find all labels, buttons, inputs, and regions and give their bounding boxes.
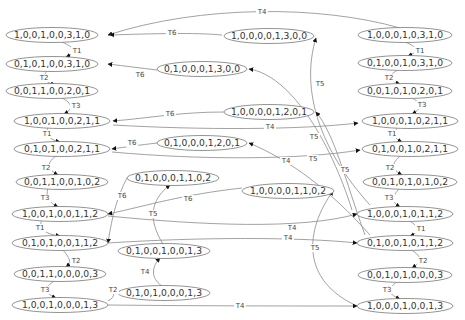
edge-label: T2 <box>41 164 51 172</box>
node-label: 1,0,0,0,1,0,1,1,2 <box>367 208 443 219</box>
node-label: 0,1,0,1,0,0,3,1,0 <box>14 58 90 69</box>
edge-label: T2 <box>39 74 49 82</box>
node-label: 1,0,0,1,0,0,2,1,1 <box>24 115 100 126</box>
edge-label: T2 <box>71 257 81 265</box>
state-node-l9[interactable]: 0,0,1,1,0,0,0,0,3 <box>14 267 106 282</box>
edge-t4 <box>113 123 358 129</box>
state-node-r10[interactable]: 1,0,0,0,1,0,0,1,3 <box>357 299 453 314</box>
edge-label: T6 <box>135 71 145 79</box>
state-node-r2[interactable]: 0,1,0,0,1,0,3,1,0 <box>358 56 452 71</box>
state-node-m5[interactable]: 0,1,0,0,0,1,1,0,2 <box>127 171 219 186</box>
edge-label: T3 <box>40 194 50 202</box>
state-node-m7[interactable]: 0,1,0,0,1,0,0,1,3 <box>118 244 210 259</box>
edge-t4 <box>108 305 357 306</box>
node-label: 0,1,0,0,1,0,1,1,2 <box>367 237 443 248</box>
edge-t6 <box>108 188 242 214</box>
edge-label: T3 <box>40 286 50 294</box>
edge-label: T2 <box>385 164 395 172</box>
edge-t2 <box>62 249 69 267</box>
node-label: 0,0,1,0,1,0,0,0,3 <box>367 269 443 280</box>
node-label: 0,1,0,0,0,1,2,0,1 <box>164 137 240 148</box>
state-node-l10[interactable]: 1,0,0,1,0,0,0,1,3 <box>12 298 108 313</box>
edge-label: T5 <box>309 133 319 141</box>
edge-label: T1 <box>387 130 397 138</box>
edge-label: T5 <box>148 210 158 218</box>
node-label: 1,0,0,0,0,1,3,0,0 <box>231 30 307 41</box>
state-node-l5[interactable]: 0,1,0,1,0,0,2,1,1 <box>14 142 110 157</box>
state-node-r6[interactable]: 0,0,1,0,1,0,1,0,2 <box>363 175 457 190</box>
state-node-l3[interactable]: 0,0,1,1,0,0,2,0,1 <box>6 84 98 99</box>
edge-label: T3 <box>384 194 394 202</box>
state-node-l4[interactable]: 1,0,0,1,0,0,2,1,1 <box>14 114 110 129</box>
edge-label: T6 <box>127 139 137 147</box>
edge-label: T2 <box>384 74 394 82</box>
node-label: 0,0,1,0,1,0,1,0,2 <box>372 176 448 187</box>
state-node-m2[interactable]: 0,1,0,0,0,1,3,0,0 <box>157 62 247 77</box>
state-node-m3[interactable]: 1,0,0,0,0,1,2,0,1 <box>224 105 314 120</box>
edges-layer <box>41 12 420 306</box>
state-node-m8[interactable]: 0,1,0,1,0,0,0,1,3 <box>118 286 210 301</box>
node-label: 1,0,0,1,0,0,0,1,3 <box>22 299 98 310</box>
state-node-r7[interactable]: 1,0,0,0,1,0,1,1,2 <box>357 207 453 222</box>
edge-label: T5 <box>308 155 318 163</box>
node-label: 1,0,0,0,1,0,2,1,1 <box>372 115 448 126</box>
state-node-l2[interactable]: 0,1,0,1,0,0,3,1,0 <box>6 57 98 72</box>
state-node-r5[interactable]: 0,1,0,0,1,0,2,1,1 <box>362 142 458 157</box>
node-label: 1,0,0,0,1,0,0,1,3 <box>367 300 443 311</box>
node-label: 0,1,0,0,0,1,1,0,2 <box>135 172 211 183</box>
edge-t4 <box>112 150 360 158</box>
state-node-r4[interactable]: 1,0,0,0,1,0,2,1,1 <box>362 114 458 129</box>
state-node-r3[interactable]: 0,0,1,0,1,0,2,0,1 <box>358 84 452 99</box>
edge-label: T4 <box>281 157 291 165</box>
edge-t3 <box>60 97 71 114</box>
state-node-l7[interactable]: 1,0,0,1,0,0,1,1,2 <box>12 207 108 222</box>
state-node-r8[interactable]: 0,1,0,0,1,0,1,1,2 <box>357 236 453 251</box>
state-node-l8[interactable]: 0,1,0,1,0,0,1,1,2 <box>12 236 108 251</box>
edge-label: T2 <box>108 286 118 294</box>
edge-label: T4 <box>235 302 245 310</box>
node-label: 0,1,0,0,0,1,3,0,0 <box>164 63 240 74</box>
edge-label: T4 <box>265 123 275 131</box>
edge-t4 <box>154 258 163 286</box>
state-node-m6[interactable]: 1,0,0,0,0,1,1,0,2 <box>242 184 334 199</box>
node-label: 1,0,0,1,0,0,1,1,2 <box>22 208 98 219</box>
edge-label: T1 <box>35 224 45 232</box>
edge-label: T6 <box>117 192 127 200</box>
node-label: 0,1,0,0,1,0,3,1,0 <box>367 57 443 68</box>
edge-label: T4 <box>257 8 267 16</box>
edge-label: T2 <box>418 257 428 265</box>
edge-label: T3 <box>71 102 81 110</box>
state-node-l1[interactable]: 1,0,0,1,0,0,3,1,0 <box>6 28 98 43</box>
diagram-svg: 1,0,0,1,0,0,3,1,00,1,0,1,0,0,3,1,00,0,1,… <box>0 0 465 320</box>
state-node-m4[interactable]: 0,1,0,0,0,1,2,0,1 <box>157 136 247 151</box>
edge-label: T6 <box>183 195 193 203</box>
node-label: 1,0,0,0,0,1,2,0,1 <box>231 106 307 117</box>
state-node-l6[interactable]: 0,0,1,1,0,0,1,0,2 <box>16 175 108 190</box>
node-label: 0,1,0,1,0,0,1,1,2 <box>22 237 98 248</box>
state-node-r1[interactable]: 1,0,0,0,1,0,3,1,0 <box>358 28 452 43</box>
edge-label: T5 <box>310 244 320 252</box>
edge-label: T3 <box>382 286 392 294</box>
edge-label: T4 <box>140 268 150 276</box>
edge-t4 <box>108 239 357 244</box>
node-label: 0,0,1,1,0,0,0,0,3 <box>22 268 98 279</box>
node-label: 0,0,1,1,0,0,1,0,2 <box>24 176 100 187</box>
node-label: 0,1,0,1,0,0,2,1,1 <box>24 143 100 154</box>
edge-labels-layer: T1T2T3T1T2T3T1T2T3T1T2T3T1T2T3T1T2T3T4T6… <box>34 8 429 310</box>
state-node-m1[interactable]: 1,0,0,0,0,1,3,0,0 <box>224 29 314 44</box>
node-label: 0,0,1,0,1,0,2,0,1 <box>367 85 443 96</box>
node-label: 0,1,0,1,0,0,0,1,3 <box>126 287 202 298</box>
edge-label: T6 <box>165 110 175 118</box>
edge-label: T5 <box>340 166 350 174</box>
state-diagram: 1,0,0,1,0,0,3,1,00,1,0,1,0,0,3,1,00,0,1,… <box>0 0 465 320</box>
node-label: 1,0,0,0,0,1,1,0,2 <box>250 185 326 196</box>
edge-label: T1 <box>415 47 425 55</box>
node-label: 0,1,0,0,1,0,0,1,3 <box>126 245 202 256</box>
edge-t6 <box>108 64 157 70</box>
edge-label: T4 <box>283 234 293 242</box>
edge-label: T6 <box>167 29 177 37</box>
edge-label: T1 <box>42 130 52 138</box>
edge-t4 <box>108 214 357 224</box>
state-node-r9[interactable]: 0,0,1,0,1,0,0,0,3 <box>358 268 452 283</box>
edge-label: T1 <box>72 47 82 55</box>
